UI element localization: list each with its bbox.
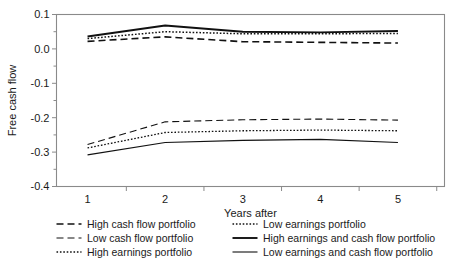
y-tick-label: -0.3 xyxy=(31,146,50,158)
x-tick-label: 1 xyxy=(84,193,90,205)
y-tick-label: 0.0 xyxy=(34,43,49,55)
legend-line-swatch xyxy=(232,219,258,229)
legend-item: Low earnings and cash flow portfolio xyxy=(232,245,456,258)
legend-item: Low cash flow portfolio xyxy=(56,231,232,244)
x-tick-label: 2 xyxy=(162,193,168,205)
y-tick-label: -0.4 xyxy=(31,180,50,192)
legend-item: High earnings and cash flow portfolio xyxy=(232,231,456,244)
legend-item-label: Low cash flow portfolio xyxy=(87,232,193,244)
y-axis-title: Free cash flow xyxy=(6,65,18,137)
chart-legend: High cash flow portfolioLow cash flow po… xyxy=(56,217,456,258)
legend-line-swatch xyxy=(56,219,82,229)
legend-item: Low earnings portfolio xyxy=(232,217,456,230)
legend-line-swatch xyxy=(56,247,82,257)
x-tick-label: 3 xyxy=(240,193,246,205)
x-tick-label: 5 xyxy=(395,193,401,205)
legend-item: High cash flow portfolio xyxy=(56,217,232,230)
series-line-5 xyxy=(88,139,398,154)
legend-item-label: Low earnings and cash flow portfolio xyxy=(263,246,433,258)
legend-column-left: High cash flow portfolioLow cash flow po… xyxy=(56,217,232,258)
free-cash-flow-chart-figure: 0.10.0-0.1-0.2-0.3-0.412345Years afterFr… xyxy=(0,0,458,266)
legend-line-swatch xyxy=(232,247,258,257)
x-tick-label: 4 xyxy=(317,193,323,205)
legend-item-label: Low earnings portfolio xyxy=(263,218,366,230)
y-tick-label: -0.2 xyxy=(31,112,50,124)
series-line-4 xyxy=(88,26,398,37)
legend-item-label: High cash flow portfolio xyxy=(87,218,196,230)
y-tick-label: -0.1 xyxy=(31,77,50,89)
legend-item-label: High earnings and cash flow portfolio xyxy=(263,232,435,244)
legend-item-label: High earnings portfolio xyxy=(87,246,192,258)
legend-line-swatch xyxy=(232,233,258,243)
legend-line-swatch xyxy=(56,233,82,243)
legend-column-right: Low earnings portfolioHigh earnings and … xyxy=(232,217,456,258)
series-line-3 xyxy=(88,130,398,148)
y-tick-label: 0.1 xyxy=(34,8,49,20)
series-layer xyxy=(88,26,398,155)
legend-item: High earnings portfolio xyxy=(56,245,232,258)
series-line-0 xyxy=(88,37,398,43)
